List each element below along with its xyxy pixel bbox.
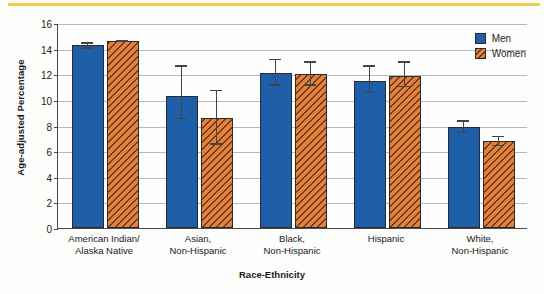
x-axis-category-label-line: Black, xyxy=(245,233,339,245)
bar-men[interactable] xyxy=(260,23,292,228)
y-axis-tick-label: 2 xyxy=(46,198,52,209)
error-bar xyxy=(122,40,123,43)
error-bar xyxy=(275,59,276,86)
error-bar-cap-lower xyxy=(492,145,504,146)
error-bar-cap-lower xyxy=(269,84,281,85)
bar-rect xyxy=(295,74,327,228)
bar-group xyxy=(340,24,434,228)
y-axis-title: Age-adjusted Percentage xyxy=(15,28,26,208)
x-axis-category-label: Asian,Non-Hispanic xyxy=(151,233,245,256)
error-bar xyxy=(87,42,88,48)
bar-rect xyxy=(354,81,386,228)
bar-men[interactable] xyxy=(354,23,386,228)
error-bar xyxy=(369,65,370,93)
error-bar-cap-lower xyxy=(116,41,128,42)
x-axis-category-label: Black,Non-Hispanic xyxy=(245,233,339,256)
x-axis-category-label-line: Non-Hispanic xyxy=(245,245,339,257)
error-bar-cap-upper xyxy=(492,136,504,137)
error-bar-cap-lower xyxy=(457,132,469,133)
error-bar-cap-upper xyxy=(210,90,222,91)
error-bar-cap-upper xyxy=(269,59,281,60)
x-axis-category-label-line: Non-Hispanic xyxy=(433,245,527,257)
bar-group xyxy=(152,24,246,228)
x-axis-category-label: Hispanic xyxy=(339,233,433,245)
error-bar xyxy=(498,136,499,146)
legend-swatch-men xyxy=(475,33,486,44)
y-axis-tick-mark xyxy=(54,229,58,230)
error-bar-cap-lower xyxy=(175,118,187,119)
error-bar xyxy=(463,120,464,133)
legend-item-men[interactable]: Men xyxy=(475,33,526,44)
bar-women[interactable] xyxy=(201,23,233,228)
plot-area: 0246810121416 xyxy=(57,24,527,229)
error-bar-cap-upper xyxy=(363,65,375,66)
x-axis-category-label-line: Hispanic xyxy=(339,233,433,245)
x-axis-category-label: American Indian/Alaska Native xyxy=(57,233,151,256)
y-axis-tick-label: 4 xyxy=(46,172,52,183)
bar-group xyxy=(246,24,340,228)
x-axis-category-label-line: Non-Hispanic xyxy=(151,245,245,257)
error-bar-cap-lower xyxy=(304,84,316,85)
chart-legend: MenWomen xyxy=(475,33,526,59)
error-bar-cap-upper xyxy=(398,61,410,62)
y-axis-tick-label: 12 xyxy=(41,70,52,81)
error-bar-cap-lower xyxy=(81,47,93,48)
bar-rect xyxy=(389,76,421,228)
y-axis-tick-label: 16 xyxy=(41,19,52,30)
legend-label: Men xyxy=(492,33,511,44)
top-gold-rule xyxy=(8,3,540,6)
error-bar-cap-upper xyxy=(457,120,469,121)
error-bar-cap-upper xyxy=(81,42,93,43)
bar-rect xyxy=(107,41,139,228)
bar-rect xyxy=(448,127,480,228)
x-axis-category-label-line: Asian, xyxy=(151,233,245,245)
bar-rect xyxy=(72,45,104,228)
bar-rect xyxy=(483,141,515,228)
legend-swatch-women xyxy=(475,48,486,59)
y-axis-tick-label: 0 xyxy=(46,224,52,235)
error-bar-cap-lower xyxy=(363,92,375,93)
x-axis-title: Race-Ethnicity xyxy=(0,269,544,280)
bar-rect xyxy=(260,73,292,228)
bar-women[interactable] xyxy=(389,23,421,228)
error-bar xyxy=(181,65,182,119)
error-bar xyxy=(404,61,405,87)
bar-group xyxy=(58,24,152,228)
error-bar-cap-upper xyxy=(175,65,187,66)
error-bar xyxy=(310,61,311,85)
bar-women[interactable] xyxy=(295,23,327,228)
x-axis-category-label-line: White, xyxy=(433,233,527,245)
bar-women[interactable] xyxy=(107,23,139,228)
legend-label: Women xyxy=(492,48,526,59)
y-axis-tick-label: 10 xyxy=(41,95,52,106)
error-bar xyxy=(216,90,217,145)
error-bar-cap-lower xyxy=(398,86,410,87)
bar-men[interactable] xyxy=(166,23,198,228)
error-bar-cap-lower xyxy=(210,143,222,144)
error-bar-cap-upper xyxy=(304,61,316,62)
chart-page: Age-adjusted Percentage 0246810121416 Am… xyxy=(0,0,544,294)
bar-men[interactable] xyxy=(72,23,104,228)
y-axis-tick-label: 8 xyxy=(46,121,52,132)
x-axis-category-label-line: Alaska Native xyxy=(57,245,151,257)
legend-item-women[interactable]: Women xyxy=(475,48,526,59)
x-axis-category-label: White,Non-Hispanic xyxy=(433,233,527,256)
y-axis-tick-label: 14 xyxy=(41,44,52,55)
x-axis-category-label-line: American Indian/ xyxy=(57,233,151,245)
y-axis-tick-label: 6 xyxy=(46,147,52,158)
